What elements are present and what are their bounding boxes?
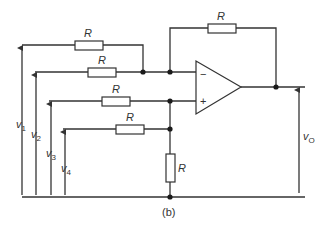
label-v2: v2 bbox=[31, 128, 42, 143]
input-branch-v3: R bbox=[49, 83, 196, 106]
figure-caption: (b) bbox=[162, 206, 175, 218]
resistor-r2-label: R bbox=[98, 54, 106, 66]
resistor-r3 bbox=[102, 97, 130, 106]
circuit-diagram: R R R R R − + R bbox=[0, 0, 326, 227]
opamp-inverting-sign: − bbox=[200, 68, 206, 80]
resistor-r1 bbox=[75, 41, 103, 50]
input-branch-v4: R bbox=[63, 111, 170, 134]
junction-dot bbox=[140, 69, 145, 74]
resistor-feedback-label: R bbox=[217, 10, 225, 22]
resistor-r4-label: R bbox=[126, 111, 134, 123]
junction-dot bbox=[167, 126, 172, 131]
resistor-r4 bbox=[116, 125, 144, 134]
ground-branch: R bbox=[166, 101, 186, 197]
junction-dot bbox=[167, 194, 172, 199]
opamp: − + bbox=[196, 61, 241, 114]
junction-dot bbox=[273, 84, 278, 89]
resistor-ground-label: R bbox=[178, 162, 186, 174]
junction-dot bbox=[167, 98, 172, 103]
label-v3: v3 bbox=[46, 147, 57, 162]
label-vo: vO bbox=[303, 130, 315, 145]
label-v1: v1 bbox=[16, 118, 27, 133]
resistor-ground bbox=[166, 154, 175, 182]
resistor-r1-label: R bbox=[84, 27, 92, 39]
resistor-r3-label: R bbox=[112, 83, 120, 95]
junction-dot bbox=[167, 69, 172, 74]
feedback-branch: R bbox=[170, 10, 276, 87]
label-v4: v4 bbox=[61, 162, 72, 177]
resistor-r2 bbox=[88, 68, 116, 77]
circuit-svg: R R R R R − + R bbox=[0, 0, 326, 227]
opamp-noninverting-sign: + bbox=[200, 95, 206, 107]
resistor-feedback bbox=[208, 24, 236, 33]
input-branch-v1: R bbox=[22, 27, 143, 72]
